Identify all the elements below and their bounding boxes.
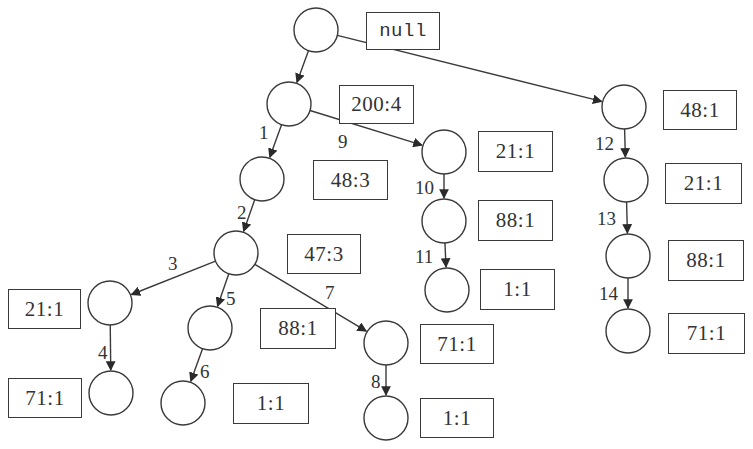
tree-node-circle xyxy=(606,234,650,278)
node-count-label: 21:1 xyxy=(665,163,742,204)
tree-node-circle xyxy=(364,321,408,365)
node-count-label: 71:1 xyxy=(8,378,82,418)
edge-label: 11 xyxy=(415,247,433,266)
edge-label: 6 xyxy=(200,362,210,381)
edge-arrow xyxy=(625,129,626,157)
edge-label: 10 xyxy=(415,178,434,197)
tree-node-circle xyxy=(214,231,258,275)
edge-label: 14 xyxy=(599,284,618,303)
edge-label: 8 xyxy=(371,372,381,391)
tree-node-circle xyxy=(606,309,650,353)
tree-node-circle xyxy=(188,306,232,350)
node-count-label: 47:3 xyxy=(287,234,361,274)
tree-node-circle xyxy=(240,157,284,201)
node-count-label: 48:3 xyxy=(313,160,388,200)
edge-arrow xyxy=(110,325,111,370)
node-count-label: 88:1 xyxy=(260,308,336,349)
nodes-group xyxy=(88,8,650,440)
node-count-label: 71:1 xyxy=(420,324,494,364)
node-count-label: null xyxy=(366,12,440,50)
node-count-label: 200:4 xyxy=(339,85,414,124)
tree-node-circle xyxy=(88,281,132,325)
node-count-label: 1:1 xyxy=(233,383,309,424)
node-count-label: 48:1 xyxy=(663,90,737,130)
edge-label: 5 xyxy=(226,289,236,308)
edge-arrow xyxy=(627,202,628,233)
edge-label: 13 xyxy=(597,209,616,228)
edge-label: 3 xyxy=(168,254,178,273)
edge-label: 12 xyxy=(595,134,614,153)
edge-label: 1 xyxy=(259,123,269,142)
tree-node-circle xyxy=(425,268,469,312)
node-count-label: 1:1 xyxy=(480,269,555,310)
edge-label: 7 xyxy=(325,283,335,302)
tree-node-circle xyxy=(602,85,646,129)
node-count-label: 88:1 xyxy=(478,200,553,241)
tree-node-circle xyxy=(89,371,133,415)
tree-node-circle xyxy=(267,82,311,126)
tree-node-circle xyxy=(604,158,648,202)
edge-arrow xyxy=(270,125,282,158)
node-count-label: 21:1 xyxy=(478,131,553,172)
tree-node-circle xyxy=(364,396,408,440)
tree-node-circle xyxy=(294,8,338,52)
edge-arrow xyxy=(297,51,309,83)
node-count-label: 88:1 xyxy=(668,240,744,281)
edge-label: 9 xyxy=(338,132,348,151)
node-count-label: 71:1 xyxy=(668,313,745,354)
tree-node-circle xyxy=(422,199,466,243)
edge-label: 4 xyxy=(98,343,108,362)
node-count-label: 21:1 xyxy=(8,289,81,329)
node-count-label: 1:1 xyxy=(420,398,494,438)
edge-label: 2 xyxy=(237,203,247,222)
tree-node-circle xyxy=(161,381,205,425)
edge-arrow xyxy=(445,243,446,267)
tree-node-circle xyxy=(422,130,466,174)
